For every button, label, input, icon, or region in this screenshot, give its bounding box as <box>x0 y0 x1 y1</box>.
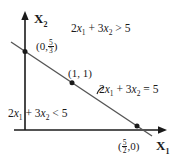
inequality-greater-label: 2x1 + 3x2 > 5 <box>71 23 130 37</box>
greater-relation: > <box>112 22 124 34</box>
x-axis-label-text: X <box>156 138 165 153</box>
y-intercept-fraction: 53 <box>48 39 54 56</box>
x-axis-arrowhead <box>158 126 167 133</box>
less-plus: + <box>23 107 35 119</box>
line-equation-label: 2x1 + 3x2 = 5 <box>99 84 158 98</box>
y-intercept-numerator: 5 <box>48 39 54 47</box>
point-one-one-label: (1, 1) <box>68 68 92 79</box>
x-intercept-rest: ,0) <box>127 140 139 152</box>
inequality-graph-figure: X2 X1 2x1 + 3x2 > 5 2x1 + 3x2 < 5 2x1 + … <box>0 0 178 161</box>
equal-relation: = <box>140 83 152 95</box>
x-intercept-numerator: 5 <box>122 139 128 147</box>
less-relation: < <box>49 107 61 119</box>
x-axis-label-subscript: 1 <box>165 147 169 156</box>
x-intercept-denominator: 2 <box>122 146 128 155</box>
equal-rhs: 5 <box>153 83 159 95</box>
point-one-one <box>70 80 75 85</box>
equal-plus: + <box>114 83 126 95</box>
greater-rhs: 5 <box>125 22 131 34</box>
inequality-less-label: 2x1 + 3x2 < 5 <box>8 108 67 122</box>
x-intercept-label: (52,0) <box>118 139 139 156</box>
point-x-intercept <box>135 124 140 129</box>
y-axis-label-subscript: 2 <box>43 20 47 29</box>
greater-plus: + <box>86 22 98 34</box>
y-intercept-close: ) <box>54 40 58 52</box>
y-axis-arrowhead <box>21 11 28 20</box>
y-intercept-label: (0,53) <box>36 39 57 56</box>
x-axis-label: X1 <box>156 139 169 156</box>
y-axis-label-text: X <box>34 11 43 26</box>
point-y-intercept <box>23 49 28 54</box>
less-rhs: 5 <box>62 107 68 119</box>
x-intercept-fraction: 52 <box>122 139 128 156</box>
y-intercept-open: (0, <box>36 40 48 52</box>
y-intercept-denominator: 3 <box>48 46 54 55</box>
y-axis-label: X2 <box>34 12 47 29</box>
